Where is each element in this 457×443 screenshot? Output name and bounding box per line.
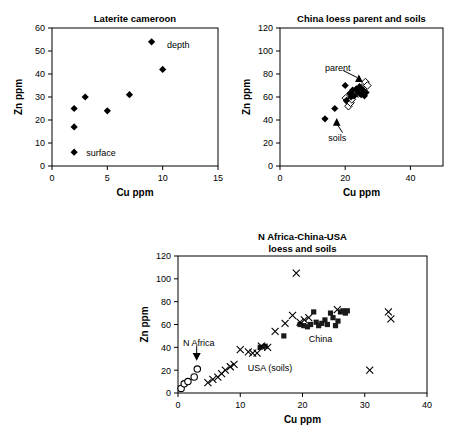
data-point [289, 312, 296, 319]
data-point [159, 66, 166, 73]
data-point [345, 308, 350, 313]
data-point [335, 318, 340, 323]
annotation-leader-line [337, 125, 342, 133]
data-point [333, 118, 341, 126]
x-tick-label: 5 [105, 173, 110, 183]
data-point [281, 333, 286, 338]
y-tick-label: 80 [263, 69, 273, 79]
x-tick-label: 0 [277, 173, 282, 183]
x-tick-label: 0 [49, 173, 54, 183]
y-tick-label: 120 [156, 251, 171, 261]
data-point [387, 315, 394, 322]
y-tick-label: 120 [258, 23, 273, 33]
x-tick-label: 0 [175, 400, 180, 410]
data-point [148, 38, 155, 45]
data-point [82, 93, 89, 100]
chart-panel-n-africa-china-usa: N Africa-China-USAloess and soils0204060… [108, 214, 457, 443]
x-tick-label: 30 [360, 400, 370, 410]
y-axis-label: Zn ppm [13, 79, 24, 115]
y-tick-label: 0 [268, 161, 273, 171]
x-axis-label: Cu ppm [343, 187, 380, 198]
data-point [366, 367, 373, 374]
data-point [293, 270, 300, 277]
data-point [282, 320, 289, 327]
figure-scatter-plots: Laterite cameroon0102030405060051015Cu p… [0, 0, 457, 443]
y-tick-label: 20 [35, 115, 45, 125]
series-usa-soils [204, 270, 394, 387]
y-tick-label: 20 [161, 366, 171, 376]
y-tick-label: 100 [156, 274, 171, 284]
plot-frame [52, 28, 218, 166]
y-axis-label: Zn ppm [241, 79, 252, 115]
data-point [254, 350, 261, 357]
chart-annotation: N Africa [183, 338, 215, 348]
x-tick-label: 40 [422, 400, 432, 410]
y-tick-label: 40 [263, 115, 273, 125]
x-axis-label: Cu ppm [284, 414, 321, 425]
y-axis-label: Zn ppm [139, 306, 150, 342]
data-point [331, 105, 338, 112]
data-point [272, 328, 279, 335]
x-axis-label: Cu ppm [116, 187, 153, 198]
y-tick-label: 80 [161, 297, 171, 307]
data-point [71, 123, 78, 130]
series-china [258, 308, 350, 350]
data-point [308, 322, 313, 327]
chart-title-line1: N Africa-China-USA [258, 231, 347, 242]
y-tick-label: 40 [35, 69, 45, 79]
data-point [126, 91, 133, 98]
series-n-africa [178, 366, 201, 392]
x-tick-label: 15 [213, 173, 223, 183]
chart-laterite-cameroon: Laterite cameroon0102030405060051015Cu p… [0, 0, 232, 210]
chart-annotation: China [309, 334, 333, 344]
chart-title-line2: loess and soils [268, 243, 336, 254]
data-point [193, 353, 201, 361]
data-point [325, 322, 330, 327]
x-tick-label: 20 [297, 400, 307, 410]
y-tick-label: 60 [263, 92, 273, 102]
chart-annotation: surface [86, 148, 116, 158]
data-point [342, 82, 349, 89]
data-point [333, 323, 338, 328]
chart-panel-china-loess: China loess parent and soils020406080100… [228, 0, 457, 210]
y-tick-label: 40 [161, 343, 171, 353]
data-point [227, 363, 234, 370]
y-tick-label: 20 [263, 138, 273, 148]
data-point [194, 366, 200, 372]
data-point [328, 310, 333, 315]
data-point [71, 149, 78, 156]
data-point [237, 346, 244, 353]
x-tick-label: 10 [235, 400, 245, 410]
chart-n-africa-china-usa: N Africa-China-USAloess and soils0204060… [108, 214, 457, 443]
data-point [355, 74, 363, 82]
y-tick-label: 60 [35, 23, 45, 33]
y-tick-label: 60 [161, 320, 171, 330]
y-tick-label: 10 [35, 138, 45, 148]
data-point [385, 308, 392, 315]
chart-panel-laterite-cameroon: Laterite cameroon0102030405060051015Cu p… [0, 0, 232, 210]
series-marker-n-africa [193, 353, 201, 361]
y-tick-label: 100 [258, 46, 273, 56]
data-point [322, 317, 327, 322]
chart-title: Laterite cameroon [94, 13, 177, 24]
chart-annotation: parent [325, 63, 351, 73]
data-point [222, 367, 229, 374]
x-tick-label: 10 [158, 173, 168, 183]
data-point [311, 309, 316, 314]
data-point [71, 105, 78, 112]
data-point [185, 378, 191, 384]
series-marker-parent [355, 74, 363, 82]
y-tick-label: 50 [35, 46, 45, 56]
data-point [321, 115, 328, 122]
y-tick-label: 0 [166, 388, 171, 398]
chart-annotation: USA (soils) [248, 363, 293, 373]
y-tick-label: 30 [35, 92, 45, 102]
data-point [231, 361, 238, 368]
chart-title: China loess parent and soils [297, 13, 426, 24]
data-point [330, 315, 335, 320]
data-point [191, 374, 197, 380]
chart-annotation: soils [328, 133, 347, 143]
chart-china-loess-parent-soils: China loess parent and soils020406080100… [228, 0, 457, 210]
y-tick-label: 0 [40, 161, 45, 171]
series-soils [321, 82, 369, 123]
